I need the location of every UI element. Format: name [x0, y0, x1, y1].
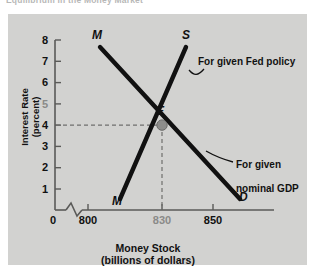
- annotation-fed-policy: For given Fed policy: [198, 56, 295, 68]
- nominal-gdp-leader-line: [206, 151, 233, 162]
- x-axis-origin-label: 0: [33, 214, 73, 226]
- money-demand-curve: [100, 47, 240, 199]
- annotation-nominal-gdp-line1: For given: [236, 159, 299, 171]
- x-tick-marks: [88, 204, 213, 210]
- chart-plot-area: [8, 14, 307, 265]
- x-axis-title-line2: (billions of dollars): [60, 254, 236, 266]
- figure-caption: Equilibrium in the Money Market: [6, 0, 306, 5]
- equilibrium-point-label: E: [156, 104, 164, 118]
- y-axis-title-line1: Interest Rate: [19, 71, 30, 163]
- chart-panel: 8 7 6 5 4 3 2 1 0 800 830 850 Interest R…: [8, 14, 307, 265]
- x-tick-label-830: 830: [142, 214, 182, 226]
- money-supply-end-label: S: [182, 28, 190, 42]
- annotation-nominal-gdp-line2: nominal GDP: [236, 183, 299, 195]
- money-demand-start-label: M: [92, 28, 102, 42]
- x-tick-label-850: 850: [193, 214, 233, 226]
- y-tick-marks: [55, 40, 61, 189]
- figure-root: Equilibrium in the Money Market: [0, 0, 319, 274]
- y-axis-title: Interest Rate (percent): [19, 71, 41, 163]
- annotation-nominal-gdp: For given nominal GDP: [236, 147, 299, 207]
- equilibrium-point-marker: [157, 120, 167, 130]
- y-tick-label-1: 1: [34, 183, 48, 195]
- x-axis-title-line1: Money Stock: [60, 242, 236, 254]
- fed-policy-leader-line: [189, 69, 204, 74]
- y-axis-title-line2: (percent): [30, 71, 41, 163]
- x-tick-label-800: 800: [68, 214, 108, 226]
- x-axis-title: Money Stock (billions of dollars): [60, 242, 236, 266]
- money-supply-curve: [120, 47, 186, 199]
- y-tick-label-8: 8: [34, 34, 48, 46]
- y-tick-label-7: 7: [34, 55, 48, 67]
- money-supply-start-label: M: [112, 194, 122, 208]
